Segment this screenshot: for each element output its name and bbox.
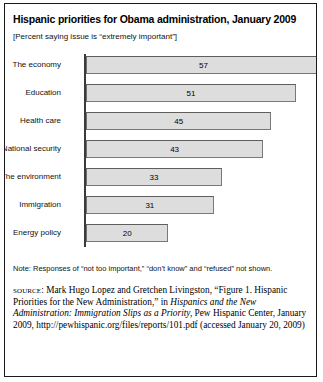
category-label: National security	[4, 144, 61, 154]
bar-row: Energy policy 20	[13, 222, 308, 250]
chart-source: source: Mark Hugo Lopez and Gretchen Liv…	[13, 285, 308, 331]
figure-inner: Hispanic priorities for Obama administra…	[5, 4, 316, 331]
bar-row: Immigration 31	[13, 194, 308, 222]
chart-subtitle: [Percent saying issue is “extremely impo…	[13, 32, 308, 42]
bar-value-label: 45	[87, 117, 270, 127]
bar-chart-plot-area: The economy 57 Education 51 Health care …	[13, 54, 308, 250]
bar: 20	[86, 224, 168, 242]
bar: 45	[86, 112, 271, 130]
category-label: Health care	[4, 116, 61, 126]
bar-value-label: 57	[87, 61, 317, 71]
category-label: The environment	[4, 172, 61, 182]
bar-value-label: 33	[87, 173, 221, 183]
bar: 33	[86, 168, 222, 186]
figure-panel: Hispanic priorities for Obama administra…	[4, 3, 317, 377]
bar-row: Health care 45	[13, 110, 308, 138]
category-label: The economy	[4, 60, 61, 70]
bar: 43	[86, 140, 263, 158]
bar-row: Education 51	[13, 82, 308, 110]
bar-value-label: 31	[87, 201, 213, 211]
category-label: Immigration	[4, 200, 61, 210]
bar: 51	[86, 84, 296, 102]
chart-title: Hispanic priorities for Obama administra…	[13, 13, 308, 25]
bar-row: The environment 33	[13, 166, 308, 194]
bar-value-label: 43	[87, 145, 262, 155]
bar: 31	[86, 196, 214, 214]
category-label: Education	[4, 88, 61, 98]
bar-row: National security 43	[13, 138, 308, 166]
category-label: Energy policy	[4, 228, 61, 238]
bar-value-label: 20	[87, 229, 167, 239]
chart-note: Note: Responses of “not too important,” …	[13, 264, 308, 274]
source-label: source:	[13, 285, 44, 295]
bar-value-label: 51	[87, 89, 295, 99]
bar-row: The economy 57	[13, 54, 308, 82]
bar: 57	[86, 56, 317, 74]
